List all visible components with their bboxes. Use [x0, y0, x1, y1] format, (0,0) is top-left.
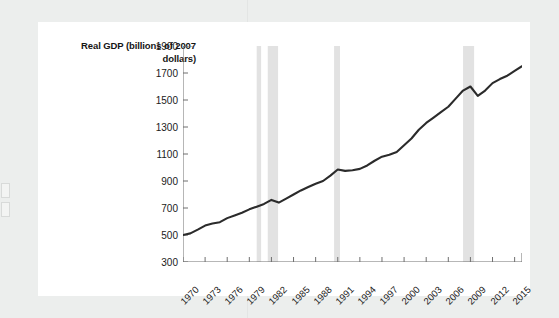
page-edge-artifacts: [0, 183, 10, 225]
edge-mark: [1, 183, 10, 198]
edge-mark: [1, 202, 10, 217]
plot-frame: [183, 46, 522, 262]
y-axis-tick-label: 900: [161, 176, 178, 187]
y-axis-tick-label: 1300: [156, 122, 178, 133]
page-root: Real GDP (billions of 2007 dollars) 3005…: [0, 0, 559, 318]
chart-plot-area: 3005007009001100130015001700190019701973…: [183, 46, 522, 262]
figure-card: Real GDP (billions of 2007 dollars) 3005…: [38, 22, 530, 296]
y-axis-tick-label: 1500: [156, 95, 178, 106]
y-axis-tick-label: 1900: [156, 41, 178, 52]
y-axis-tick-label: 1100: [156, 149, 178, 160]
y-axis-tick-label: 700: [161, 203, 178, 214]
y-axis-tick-label: 1700: [156, 68, 178, 79]
x-axis-tick-label: 2015: [525, 269, 548, 292]
y-axis-tick-label: 500: [161, 230, 178, 241]
y-axis-tick-label: 300: [161, 257, 178, 268]
